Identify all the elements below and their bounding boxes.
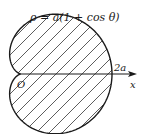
origin-label: O: [17, 79, 25, 90]
x-axis-label: x: [130, 79, 136, 90]
cardioid-diagram: ρ = a(1 + cos θ) O 2a x: [0, 0, 146, 134]
point-2a-label: 2a: [113, 62, 126, 73]
equation-label: ρ = a(1 + cos θ): [29, 11, 120, 24]
